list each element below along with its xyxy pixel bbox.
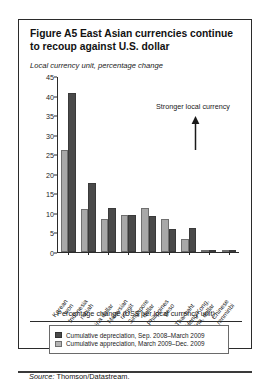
y-tick-mark (54, 155, 57, 156)
y-tick-label: 25 (46, 151, 54, 160)
bar[interactable] (81, 209, 88, 252)
legend-item-depreciation: Cumulative depreciation, Sep. 2008–March… (55, 332, 223, 339)
y-tick-label: 20 (46, 170, 54, 179)
page-rule (18, 371, 252, 373)
bar-group[interactable] (179, 77, 199, 252)
bar[interactable] (201, 250, 208, 252)
y-tick-mark (54, 116, 57, 117)
x-axis-labels: KoreanwonIndonesiarupiahChina dollarMala… (58, 255, 239, 307)
y-tick-mark (54, 96, 57, 97)
bar[interactable] (161, 219, 168, 252)
legend-item-appreciation: Cumulative appreciation, March 2009–Dec.… (55, 340, 223, 347)
source-text: Thomson/Datastream. (56, 372, 129, 381)
bar[interactable] (189, 228, 196, 252)
y-tick-mark (54, 194, 57, 195)
chart-legend: Cumulative depreciation, Sep. 2008–March… (49, 325, 229, 354)
bar[interactable] (169, 229, 176, 252)
y-tick-mark (54, 77, 57, 78)
plot-area: 051015202530354045 (57, 77, 239, 253)
bar[interactable] (121, 215, 128, 252)
legend-label-appreciation: Cumulative appreciation, March 2009–Dec.… (66, 340, 205, 347)
legend-swatch-depreciation (55, 332, 62, 338)
source-note: Source: Thomson/Datastream. (29, 372, 130, 381)
y-tick-label: 40 (46, 92, 54, 101)
bar-group[interactable] (58, 77, 78, 252)
y-tick-label: 10 (46, 209, 54, 218)
bar-group[interactable] (118, 77, 138, 252)
figure-container: Figure A5 East Asian currencies continue… (18, 19, 252, 349)
source-label: Source: (29, 372, 54, 381)
bar-groups (58, 77, 239, 252)
bar-group[interactable] (78, 77, 98, 252)
figure-page: Figure A5 East Asian currencies continue… (0, 0, 270, 389)
bar-group[interactable] (159, 77, 179, 252)
figure-title: Figure A5 East Asian currencies continue… (30, 28, 242, 53)
y-tick-label: 35 (46, 112, 54, 121)
y-tick-label: 45 (46, 73, 54, 82)
y-tick-mark (54, 135, 57, 136)
bar-group[interactable] (138, 77, 158, 252)
bar[interactable] (229, 250, 236, 252)
legend-label-depreciation: Cumulative depreciation, Sep. 2008–March… (66, 332, 205, 339)
y-tick-label: 15 (46, 190, 54, 199)
bar[interactable] (141, 208, 148, 252)
bar[interactable] (128, 215, 135, 252)
bar[interactable] (108, 208, 115, 252)
bar[interactable] (149, 216, 156, 252)
bar[interactable] (68, 93, 75, 252)
y-tick-label: 30 (46, 131, 54, 140)
bar[interactable] (61, 150, 68, 252)
x-axis-title: Percentage change (US$ per local currenc… (30, 309, 242, 318)
bar[interactable] (181, 239, 188, 251)
bar-group[interactable] (219, 77, 239, 252)
figure-subtitle: Local currency unit, percentage change (30, 61, 242, 70)
y-tick-mark (54, 233, 57, 234)
y-tick-mark (54, 174, 57, 175)
bar[interactable] (222, 250, 229, 252)
bar-group[interactable] (98, 77, 118, 252)
source-divider (30, 321, 242, 322)
y-tick-mark (54, 253, 57, 254)
bar-group[interactable] (199, 77, 219, 252)
y-tick-mark (54, 213, 57, 214)
bar[interactable] (209, 250, 216, 252)
bar[interactable] (88, 183, 95, 252)
bar[interactable] (101, 219, 108, 252)
legend-swatch-appreciation (55, 341, 62, 347)
